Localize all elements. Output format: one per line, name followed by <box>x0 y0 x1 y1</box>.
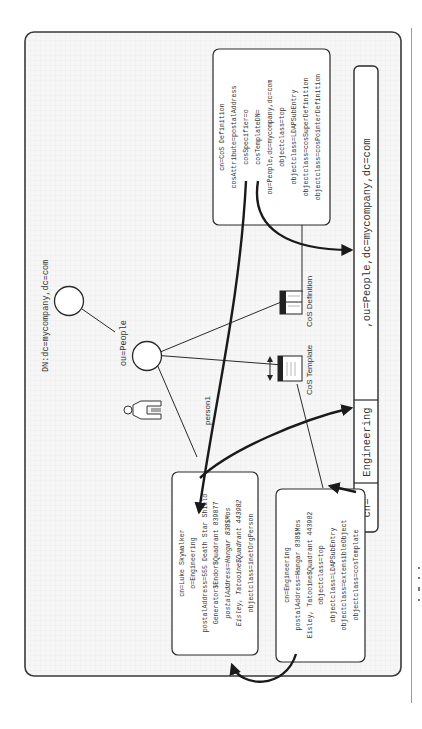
ou-people-node[interactable] <box>133 342 162 371</box>
cos-def-line-0: cn=CoS Definition <box>219 103 226 170</box>
cos-def-line-8: objectclass=cosPointerDefinition <box>315 74 322 201</box>
person-line-3: Generator$Endor$Quadrant 839077 <box>213 502 220 625</box>
cos-def-line-5: objectclass=top <box>279 107 286 166</box>
template-dn-bar[interactable]: cn= Engineering ,ou=People,dc=mycompany,… <box>354 66 378 532</box>
template-line-5: objectclass=extensibleObject <box>341 520 348 631</box>
cos-template-icon-label: CoS Template <box>305 344 314 395</box>
person-line-2: postalAddress=555 Death Star Shield <box>202 494 209 633</box>
template-entry[interactable]: cn=Engineering postalAddress=Hangar 838$… <box>276 489 365 662</box>
cos-def-line-1: cosAttribute=postalAddress <box>231 86 238 189</box>
cos-def-line-4: ou=People,dc=mycompany,dc=com <box>267 80 274 195</box>
person-entry[interactable]: cn=Luke Skywalker o=Engineering postalAd… <box>172 472 258 655</box>
template-line-0: cn=Engineering <box>284 547 291 602</box>
cos-definition-icon[interactable] <box>280 291 302 314</box>
cos-definition-icon-label: CoS Definition <box>305 276 314 327</box>
root-dn-label: DN:dc=mycompany,dc=com <box>41 260 51 372</box>
cos-diagram: DN:dc=mycompany,dc=com ou=People person1… <box>0 0 422 729</box>
dn-segment-base: ,ou=People,dc=mycompany,dc=com <box>361 138 373 327</box>
person-line-5: Eisley, Tatooine$Quadrant 443982 <box>236 500 243 627</box>
template-line-4: objectclass=LDAPSubEntry <box>330 527 337 622</box>
template-line-1: postalAddress=Hangar 838$Mos <box>295 520 302 631</box>
person-line-0: cn=Luke Skywalker <box>179 529 186 596</box>
person-label: person1 <box>203 396 212 425</box>
cos-def-line-6: objectclass=LDAPSubEntry <box>291 89 298 184</box>
template-line-2: Eisley, Tatooine$Quadrant 443982 <box>307 512 314 639</box>
ou-people-label: ou=People <box>119 320 129 366</box>
cos-def-line-3: cosTemplateDN= <box>255 109 262 164</box>
cos-def-line-7: objectclass=cosSuperDefinition <box>303 78 310 197</box>
template-line-3: objectclass=top <box>318 545 325 604</box>
cos-def-line-2: cosSpecifier=o <box>243 109 250 164</box>
cos-definition-entry[interactable]: cn=CoS Definition cosAttribute=postalAdd… <box>213 49 330 225</box>
template-line-6: objectclass=cosTemplate <box>353 529 360 620</box>
person-line-4: postalAddress=Hangar 838$Mos <box>225 508 232 620</box>
dn-segment-engineering[interactable]: Engineering <box>361 407 373 476</box>
person-line-1: o=Engineering <box>190 537 197 588</box>
person-line-6: objectclass=inetOrgPerson <box>248 514 255 613</box>
root-node[interactable] <box>55 287 84 316</box>
